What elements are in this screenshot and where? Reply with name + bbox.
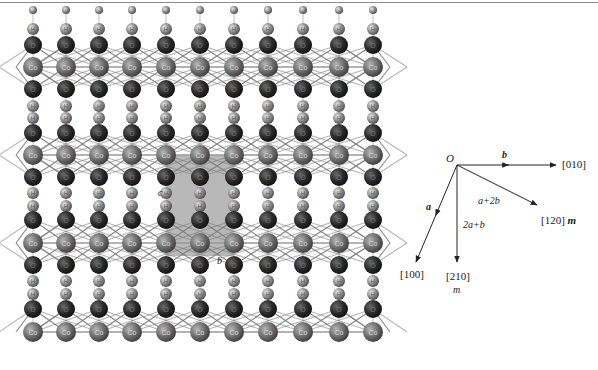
atom-o: O [123,211,141,229]
svg-text:H: H [337,115,341,121]
vector-b-label: b [502,150,507,160]
atom-co: Co [190,145,210,165]
atom-o: O [259,36,277,54]
svg-text:O: O [129,130,135,137]
svg-text:O: O [231,174,237,181]
atom-o: O [57,124,75,142]
atom-co: Co [293,322,313,342]
svg-text:O: O [129,86,135,93]
origin-label: O [446,153,454,164]
atom-o: O [57,36,75,54]
svg-text:H: H [198,26,202,32]
atom-co: Co [258,57,278,77]
svg-text:Co: Co [299,152,308,159]
svg-text:H: H [232,26,236,32]
atom-h: H [367,288,379,300]
svg-text:O: O [197,262,203,269]
atom-o: O [294,256,312,274]
atom-h: H [60,288,72,300]
svg-text:O: O [63,306,69,313]
svg-text:O: O [300,306,306,313]
atom-co: Co [329,57,349,77]
atom-h: H [126,288,138,300]
atom-o: O [57,256,75,274]
atom-o: O [294,211,312,229]
svg-text:Co: Co [196,152,205,159]
svg-text:H: H [64,26,68,32]
atom-co: Co [224,233,244,253]
svg-text:H: H [97,203,101,209]
atom-h: H [93,200,105,212]
atom-o: O [90,124,108,142]
direction-120-label: [120] m [541,215,576,226]
svg-text:O: O [336,174,342,181]
atom-o: O [24,124,42,142]
atom-co: Co [122,57,142,77]
atom-o: O [330,80,348,98]
atom-o: O [364,36,382,54]
atom-o: O [330,36,348,54]
atom-h: H [160,23,172,35]
atom-o: O [90,300,108,318]
svg-text:H: H [97,26,101,32]
svg-text:O: O [300,42,306,49]
atom-o: O [294,300,312,318]
svg-text:O: O [129,42,135,49]
svg-text:H: H [232,115,236,121]
svg-text:O: O [197,174,203,181]
atom-o: O [157,36,175,54]
svg-text:H: H [130,291,134,297]
svg-text:H: H [301,291,305,297]
atom-h: H [228,288,240,300]
svg-text:H: H [266,190,270,196]
atom-co: Co [224,57,244,77]
atom-o: O [157,211,175,229]
svg-text:O: O [129,174,135,181]
atom-h: H [194,112,206,124]
svg-text:H: H [301,26,305,32]
svg-text:Co: Co [196,240,205,247]
svg-text:O: O [30,86,36,93]
svg-text:H: H [232,278,236,284]
svg-text:O: O [336,86,342,93]
svg-text:H: H [266,203,270,209]
atom-o: O [294,80,312,98]
atom-o: O [157,256,175,274]
svg-text:O: O [197,130,203,137]
svg-text:O: O [163,130,169,137]
svg-text:O: O [30,217,36,224]
svg-text:O: O [197,42,203,49]
svg-text:Co: Co [196,64,205,71]
atom-h [128,6,136,14]
atom-o: O [24,300,42,318]
atom-co: Co [363,145,383,165]
atom-h [230,6,238,14]
svg-text:Co: Co [264,240,273,247]
atom-o: O [57,211,75,229]
atom-h: H [93,275,105,287]
atom-h: H [262,23,274,35]
svg-text:O: O [63,86,69,93]
svg-text:H: H [198,291,202,297]
atom-h: H [160,200,172,212]
svg-text:H: H [371,103,375,109]
svg-text:H: H [31,26,35,32]
svg-text:H: H [97,291,101,297]
svg-text:O: O [96,306,102,313]
svg-text:O: O [300,262,306,269]
atom-co: Co [89,145,109,165]
atom-h: H [333,187,345,199]
svg-text:Co: Co [335,152,344,159]
atom-co: Co [293,233,313,253]
svg-text:O: O [265,42,271,49]
svg-text:Co: Co [162,329,171,336]
svg-text:H: H [198,278,202,284]
svg-text:O: O [231,262,237,269]
svg-text:H: H [198,115,202,121]
atom-h: H [228,23,240,35]
atom-co: Co [156,57,176,77]
vector-a-label: a [426,202,431,212]
svg-text:O: O [370,42,376,49]
atom-h: H [194,100,206,112]
atom-co: Co [329,233,349,253]
